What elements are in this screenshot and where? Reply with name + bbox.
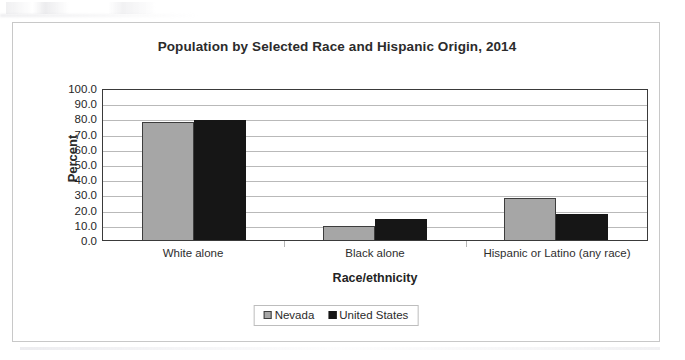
y-axis-tick-label: 60.0 — [75, 144, 97, 156]
legend-swatch-icon — [328, 311, 336, 319]
x-axis-tick-labels: White aloneBlack aloneHispanic or Latino… — [102, 247, 648, 259]
legend: NevadaUnited States — [254, 305, 419, 326]
y-axis-tick-label: 10.0 — [75, 220, 97, 232]
bar-united-states[interactable] — [375, 219, 427, 240]
legend-swatch-icon — [264, 311, 272, 319]
chart-frame: Population by Selected Race and Hispanic… — [12, 22, 660, 342]
y-axis-tick-label: 30.0 — [75, 189, 97, 201]
y-axis-tick-label: 100.0 — [68, 83, 97, 95]
y-axis-tick-label: 90.0 — [75, 98, 97, 110]
scan-artifact-bottom-edge — [20, 347, 660, 350]
scan-artifact — [6, 2, 156, 14]
legend-item[interactable]: Nevada — [264, 309, 315, 321]
plot-area — [102, 89, 648, 241]
y-axis-tick-label: 40.0 — [75, 174, 97, 186]
x-axis-tick-label: Black alone — [284, 247, 466, 259]
bar-group — [284, 90, 465, 240]
screenshot-canvas: Population by Selected Race and Hispanic… — [0, 0, 685, 360]
bar-nevada[interactable] — [142, 122, 194, 240]
bar-nevada[interactable] — [504, 198, 556, 240]
legend-label: United States — [339, 309, 408, 321]
legend-item[interactable]: United States — [328, 309, 408, 321]
x-axis-tick-label: White alone — [102, 247, 284, 259]
x-axis-title: Race/ethnicity — [102, 271, 648, 285]
bar-group — [103, 90, 284, 240]
legend-label: Nevada — [275, 309, 315, 321]
bar-united-states[interactable] — [194, 120, 246, 240]
y-axis-tick-labels: 100.090.080.070.060.050.040.030.020.010.… — [51, 89, 101, 241]
bars-layer — [103, 90, 647, 240]
bar-united-states[interactable] — [556, 214, 608, 240]
y-axis-tick-label: 50.0 — [75, 159, 97, 171]
bar-nevada[interactable] — [323, 226, 375, 240]
chart-title: Population by Selected Race and Hispanic… — [13, 39, 661, 54]
x-axis-tick-label: Hispanic or Latino (any race) — [466, 247, 648, 259]
y-axis-tick-label: 0.0 — [81, 235, 97, 247]
y-axis-tick-label: 80.0 — [75, 113, 97, 125]
y-axis-tick-label: 70.0 — [75, 129, 97, 141]
y-axis-tick-label: 20.0 — [75, 205, 97, 217]
bar-group — [466, 90, 647, 240]
scan-artifact-line — [0, 14, 200, 17]
